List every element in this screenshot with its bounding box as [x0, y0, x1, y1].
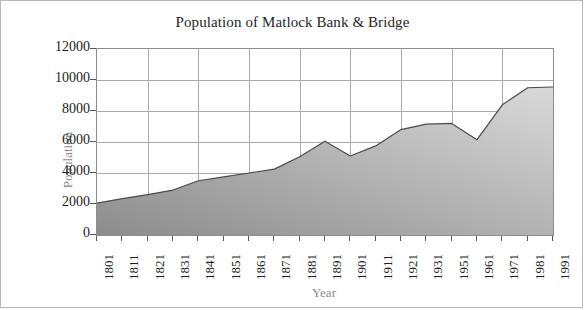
y-tick-label: 2000	[34, 194, 90, 210]
x-tick-mark	[197, 236, 198, 241]
x-tick-mark	[172, 236, 173, 241]
x-tick-label: 1801	[101, 236, 117, 280]
x-tick-label: 1881	[304, 236, 320, 280]
population-area-series	[97, 49, 553, 235]
x-tick-label: 1841	[202, 236, 218, 280]
x-tick-label: 1861	[253, 236, 269, 280]
x-tick-mark	[324, 236, 325, 241]
x-axis-title: Year	[96, 285, 552, 301]
x-tick-label: 1931	[430, 236, 446, 280]
x-tick-label: 1911	[380, 236, 396, 280]
x-tick-label: 1851	[228, 236, 244, 280]
x-tick-mark	[527, 236, 528, 241]
x-tick-mark	[121, 236, 122, 241]
area-fill	[97, 87, 553, 235]
x-tick-label: 1921	[405, 236, 421, 280]
x-tick-mark	[501, 236, 502, 241]
x-tick-label: 1981	[532, 236, 548, 280]
gridline-vertical	[553, 49, 554, 235]
y-tick-label: 12000	[34, 39, 90, 55]
y-tick-label: 0	[34, 225, 90, 241]
x-tick-mark	[375, 236, 376, 241]
plot-area	[96, 48, 554, 236]
x-tick-label: 1871	[278, 236, 294, 280]
x-tick-label: 1971	[506, 236, 522, 280]
x-tick-mark	[96, 236, 97, 241]
x-tick-label: 1991	[557, 236, 573, 280]
y-tick-label: 4000	[34, 163, 90, 179]
x-tick-mark	[273, 236, 274, 241]
y-tick-label: 8000	[34, 101, 90, 117]
x-tick-mark	[552, 236, 553, 241]
chart-title: Population of Matlock Bank & Bridge	[0, 14, 585, 31]
x-tick-label: 1811	[126, 236, 142, 280]
area-series-layer	[97, 49, 553, 235]
x-axis: 1801181118211831184118511861187118811891…	[96, 236, 552, 282]
x-tick-label: 1821	[152, 236, 168, 280]
x-tick-label: 1831	[177, 236, 193, 280]
chart-page: Population of Matlock Bank & Bridge Popu…	[0, 0, 585, 310]
x-tick-mark	[349, 236, 350, 241]
x-tick-mark	[425, 236, 426, 241]
x-tick-mark	[223, 236, 224, 241]
x-tick-mark	[248, 236, 249, 241]
x-tick-mark	[299, 236, 300, 241]
x-tick-mark	[400, 236, 401, 241]
x-tick-mark	[476, 236, 477, 241]
x-tick-label: 1951	[456, 236, 472, 280]
y-axis: Population 020004000600080001000012000	[30, 48, 90, 234]
x-tick-label: 1901	[354, 236, 370, 280]
x-tick-mark	[451, 236, 452, 241]
x-tick-label: 1961	[481, 236, 497, 280]
y-tick-label: 6000	[34, 132, 90, 148]
x-tick-label: 1891	[329, 236, 345, 280]
y-tick-label: 10000	[34, 70, 90, 86]
x-tick-mark	[147, 236, 148, 241]
